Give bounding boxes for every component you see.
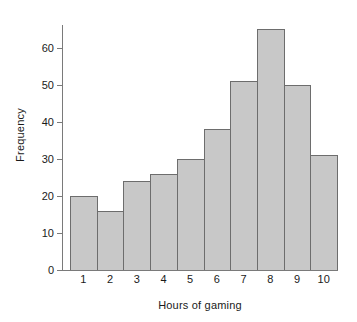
x-axis-tick-label: 1 — [70, 274, 97, 285]
y-axis-tick-mark — [57, 270, 62, 271]
y-axis-tick-label: 10 — [42, 227, 54, 238]
y-axis-tick-mark — [57, 159, 62, 160]
x-axis-tick-labels: 12345678910 — [70, 274, 337, 285]
x-axis-title: Hours of gaming — [62, 299, 338, 311]
y-axis-tick-mark — [57, 85, 62, 86]
y-axis-title: Frequency — [8, 0, 32, 270]
x-axis-tick-label: 6 — [204, 274, 231, 285]
y-axis-tick-label: 20 — [42, 190, 54, 201]
bar[interactable] — [150, 174, 178, 270]
y-axis-tick-mark — [57, 122, 62, 123]
x-axis-tick-label: 2 — [97, 274, 124, 285]
x-axis-tick-label: 3 — [123, 274, 150, 285]
y-axis-tick-mark — [57, 48, 62, 49]
x-axis-tick-label: 7 — [230, 274, 257, 285]
y-axis-tick-label: 30 — [42, 153, 54, 164]
plot-area: 0102030405060 — [62, 18, 338, 270]
y-axis-tick-label: 60 — [42, 42, 54, 53]
x-axis-tick-label: 4 — [150, 274, 177, 285]
bar[interactable] — [257, 29, 285, 270]
bar[interactable] — [70, 196, 98, 270]
bar[interactable] — [97, 211, 125, 270]
bar[interactable] — [230, 81, 258, 270]
x-axis-tick-label: 5 — [177, 274, 204, 285]
x-axis-tick-label: 9 — [284, 274, 311, 285]
bar-group — [70, 18, 337, 270]
x-axis-line — [62, 270, 338, 271]
y-axis-tick-label: 0 — [48, 265, 54, 276]
histogram-figure: Frequency 0102030405060 12345678910 Hour… — [0, 0, 357, 322]
bar[interactable] — [284, 85, 312, 270]
x-axis-tick-label: 10 — [310, 274, 337, 285]
y-axis-tick-mark — [57, 233, 62, 234]
y-axis-line — [62, 25, 63, 270]
x-axis-tick-label: 8 — [257, 274, 284, 285]
bar[interactable] — [177, 159, 205, 270]
bar[interactable] — [310, 155, 338, 270]
y-axis-tick-label: 40 — [42, 116, 54, 127]
y-axis-title-text: Frequency — [14, 108, 26, 162]
bar[interactable] — [204, 129, 232, 270]
y-axis-tick-mark — [57, 196, 62, 197]
bar[interactable] — [123, 181, 151, 270]
y-axis-tick-label: 50 — [42, 79, 54, 90]
